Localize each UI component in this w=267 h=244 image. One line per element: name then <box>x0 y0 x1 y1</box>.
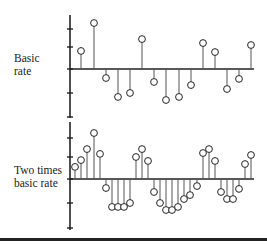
stem-marker <box>194 183 201 190</box>
stem-marker <box>115 94 122 101</box>
stem-marker <box>84 146 91 153</box>
stem-marker <box>139 36 146 43</box>
stem-marker <box>212 158 219 165</box>
stem-marker <box>103 75 110 82</box>
stem-marker <box>187 192 194 199</box>
stem-marker <box>127 200 134 207</box>
stem-marker <box>151 79 158 86</box>
stem-marker <box>200 40 207 47</box>
stem-marker <box>72 164 79 171</box>
stem-marker <box>78 157 85 164</box>
stem-marker <box>163 97 170 104</box>
stem-marker <box>151 189 158 196</box>
stem-marker <box>127 90 134 97</box>
stem-marker <box>91 130 98 137</box>
stem-marker <box>200 150 207 157</box>
stem-marker <box>97 151 104 158</box>
stem-marker <box>78 48 85 55</box>
stem-marker <box>181 196 188 203</box>
stem-marker <box>218 189 225 196</box>
stem-marker <box>236 76 243 83</box>
stem-marker <box>206 146 213 153</box>
stem-marker <box>188 82 195 89</box>
bottom-rule <box>0 238 267 241</box>
stem-marker <box>103 185 110 192</box>
stem-marker <box>212 49 219 56</box>
stem-marker <box>224 86 231 93</box>
stem-marker <box>236 186 243 193</box>
stem-marker <box>248 152 255 159</box>
stem-marker <box>230 196 237 203</box>
stem-marker <box>145 158 152 165</box>
stem-marker <box>248 42 255 49</box>
stem-marker <box>139 146 146 153</box>
stem-marker <box>133 154 140 161</box>
stem-marker <box>157 200 164 207</box>
stem-marker <box>176 94 183 101</box>
stem-marker <box>242 161 249 168</box>
stem-marker <box>91 20 98 27</box>
stem-marker <box>121 204 128 211</box>
stem-plots <box>0 0 267 244</box>
stem-marker <box>175 204 182 211</box>
